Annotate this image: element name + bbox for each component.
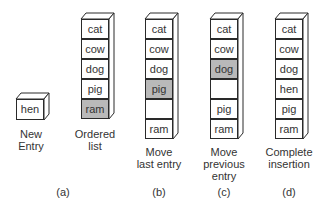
new-entry-cell: hen [16, 99, 44, 120]
caption-line: entry [189, 170, 259, 182]
list-cell: cow [145, 39, 173, 59]
new-entry-caption: New Entry [0, 128, 66, 152]
caption-line: Entry [0, 140, 66, 152]
list-cell: dog [81, 59, 109, 79]
panel-c-label: (c) [209, 186, 239, 198]
list-cell-empty [210, 79, 238, 99]
list-cell: cow [210, 39, 238, 59]
caption-line: list [60, 140, 130, 152]
list-cell: cat [81, 19, 109, 39]
list-cell-empty [145, 99, 173, 119]
list-cell: cat [210, 19, 238, 39]
list-cell: ram [210, 119, 238, 139]
caption-line: Move [189, 146, 259, 158]
list-cell-highlighted: ram [81, 99, 109, 119]
list-cell: cow [81, 39, 109, 59]
list-cell: ram [145, 119, 173, 139]
caption-line: Move [124, 146, 194, 158]
list-cell: cat [145, 19, 173, 39]
list-cell: dog [145, 59, 173, 79]
panel-a-label: (a) [48, 186, 78, 198]
caption-line: Ordered [60, 128, 130, 140]
caption-line: last entry [124, 158, 194, 170]
panel-b-caption: Move last entry [124, 146, 194, 170]
list-cell: ram [275, 119, 303, 139]
list-cell: pig [275, 99, 303, 119]
caption-line: New [0, 128, 66, 140]
list-cell: cat [275, 19, 303, 39]
list-cell: hen [275, 79, 303, 99]
list-cell: pig [81, 79, 109, 99]
caption-line: insertion [254, 158, 324, 170]
panel-b-label: (b) [144, 186, 174, 198]
list-cell: pig [210, 99, 238, 119]
panel-c-caption: Move previous entry [189, 146, 259, 182]
caption-line: previous [189, 158, 259, 170]
list-cell: cow [275, 39, 303, 59]
list-cell: dog [275, 59, 303, 79]
panel-d-caption: Complete insertion [254, 146, 324, 170]
list-cell-highlighted: dog [210, 59, 238, 79]
ordered-list-caption: Ordered list [60, 128, 130, 152]
panel-d-label: (d) [274, 186, 304, 198]
caption-line: Complete [254, 146, 324, 158]
list-cell-highlighted: pig [145, 79, 173, 99]
